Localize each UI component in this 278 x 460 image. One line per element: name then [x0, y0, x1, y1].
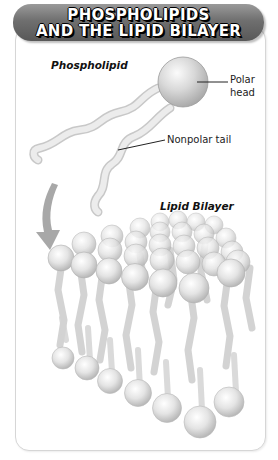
diagram-illustration	[0, 0, 278, 460]
phospholipid-label: Phospholipid	[51, 59, 128, 71]
lipid-bilayer-label: Lipid Bilayer	[160, 200, 234, 212]
polar-head-label-line1: Polar	[230, 73, 255, 86]
bilayer-lower-spheres	[52, 347, 244, 438]
curved-arrow	[36, 183, 60, 250]
bilayer-upper-spheres	[48, 211, 250, 303]
polar-head-label-line2: head	[230, 86, 255, 99]
nonpolar-tail-label: Nonpolar tail	[167, 133, 231, 146]
